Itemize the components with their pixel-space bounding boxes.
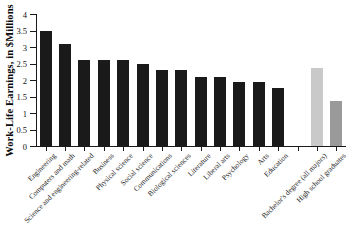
work-life-earnings-chart: Work-Life Earnings, in $Millions 00.511.… — [0, 0, 355, 247]
x-axis-tick — [259, 146, 260, 151]
bar — [117, 60, 129, 146]
x-axis-tick — [123, 146, 124, 151]
y-axis-tick-label: 1 — [23, 109, 27, 118]
bar — [272, 88, 284, 146]
bar — [78, 60, 90, 146]
bars-layer — [36, 14, 346, 146]
y-axis-tick-label: 1.5 — [16, 93, 27, 102]
x-axis-tick — [278, 146, 279, 151]
y-axis-tick-label: 3 — [23, 43, 27, 52]
x-axis-tick — [162, 146, 163, 151]
bar — [59, 44, 71, 146]
x-axis-line — [36, 146, 346, 147]
bar — [214, 77, 226, 146]
bar — [195, 77, 207, 146]
y-axis-title-text: Work-Life Earnings, in $Millions — [4, 4, 15, 157]
x-axis-tick — [65, 146, 66, 151]
x-axis-label: Arts — [256, 152, 270, 166]
x-axis-tick — [104, 146, 105, 151]
x-axis-tick — [239, 146, 240, 151]
bar — [175, 70, 187, 146]
x-axis-label-text: Arts — [256, 152, 270, 166]
y-axis-tick-label: 0.5 — [16, 126, 27, 135]
bar — [156, 70, 168, 146]
bar — [330, 101, 342, 146]
x-axis-labels: EngineeringComputers and mathScience and… — [36, 152, 355, 247]
y-axis-tick-label: 2 — [23, 76, 27, 85]
bar — [137, 64, 149, 147]
bar — [40, 31, 52, 147]
x-axis-tick — [84, 146, 85, 151]
x-axis-tick — [317, 146, 318, 151]
x-axis-tick — [143, 146, 144, 151]
x-axis-tick — [336, 146, 337, 151]
x-axis-tick — [220, 146, 221, 151]
y-axis-tick-label: 2.5 — [16, 60, 27, 69]
y-axis-tick-label: 3.5 — [16, 27, 27, 36]
bar — [311, 68, 323, 146]
bar — [233, 82, 245, 146]
bar — [98, 60, 110, 146]
y-axis-tick: 0 — [30, 146, 36, 147]
x-axis-tick — [46, 146, 47, 151]
plot-area: 00.511.522.533.54 — [36, 14, 346, 146]
x-axis-tick — [181, 146, 182, 151]
y-axis-tick-label: 4 — [23, 10, 27, 19]
bar — [253, 82, 265, 146]
y-axis-tick-label: 0 — [23, 142, 27, 151]
y-axis-title: Work-Life Earnings, in $Millions — [0, 0, 18, 160]
x-axis-tick — [298, 146, 299, 151]
x-axis-tick — [201, 146, 202, 151]
